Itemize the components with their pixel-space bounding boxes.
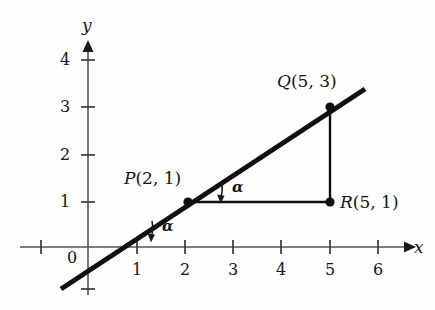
point-p-coords: (2, 1) (135, 168, 181, 188)
x-tick-label-3: 3 (228, 262, 238, 278)
y-axis-label: y (82, 17, 92, 34)
y-tick-label-1: 1 (60, 194, 70, 210)
point-r-dot (325, 197, 334, 206)
point-r-coords: (5, 1) (353, 192, 399, 212)
y-axis-arrowhead (83, 40, 94, 52)
x-tick-label-2: 2 (180, 262, 190, 278)
alpha-label-at-x-axis: α (162, 219, 174, 234)
y-tick-label-2: 2 (60, 147, 70, 163)
y-tick-label-4: 4 (60, 52, 70, 68)
point-q-dot (325, 102, 334, 111)
point-p-letter: P (124, 168, 135, 188)
point-q-coords: (5, 3) (291, 71, 337, 91)
point-p-dot (183, 197, 192, 206)
origin-label: 0 (67, 250, 77, 266)
x-tick-label-5: 5 (325, 262, 335, 278)
x-tick-label-6: 6 (373, 262, 383, 278)
axes-group (20, 40, 416, 295)
point-r-letter: R (340, 192, 353, 212)
x-tick-label-4: 4 (276, 262, 286, 278)
x-axis-label: x (414, 239, 424, 256)
y-tick-label-3: 3 (60, 99, 70, 115)
point-r-label: R(5, 1) (340, 194, 399, 211)
coordinate-figure: x y 0 1 2 3 4 5 6 1 2 3 4 P(2, 1) Q(5, 3… (0, 0, 435, 310)
slope-line (61, 89, 365, 289)
point-q-label: Q(5, 3) (277, 73, 337, 90)
point-p-label: P(2, 1) (124, 170, 181, 187)
alpha-label-at-p: α (232, 180, 244, 195)
point-q-letter: Q (277, 71, 291, 91)
x-tick-label-1: 1 (132, 262, 142, 278)
